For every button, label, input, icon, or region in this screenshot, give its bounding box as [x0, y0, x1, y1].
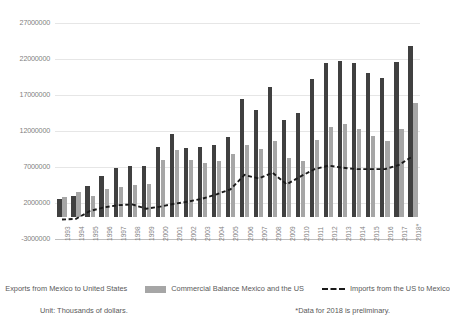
x-axis-tick-label: 2018*: [416, 224, 423, 241]
legend-item: Exports from Mexico to United States: [0, 285, 127, 293]
x-axis-tick-label: 1999: [149, 226, 156, 241]
legend-label: Imports from the US to Mexico: [350, 285, 450, 293]
y-axis-tick-label: 12000000: [20, 127, 50, 134]
x-axis-tick-label: 2014: [360, 226, 367, 241]
y-axis-tick-label: 27000000: [20, 19, 50, 26]
dashed-line-swatch-icon: [322, 288, 345, 290]
x-axis-tick-label: 2017: [402, 226, 409, 241]
x-axis-tick-label: 2001: [177, 226, 184, 241]
preliminary-note: *Data for 2018 is preliminary.: [295, 306, 390, 315]
y-axis-tick-label: 17000000: [20, 91, 50, 98]
y-axis-tick-label: -3000000: [21, 235, 50, 242]
x-axis-tick-label: 2010: [304, 226, 311, 241]
legend-label: Commercial Balance Mexico and the US: [171, 285, 304, 293]
unit-note: Unit: Thousands of dollars.: [40, 306, 128, 315]
x-axis-tick-label: 2016: [388, 226, 395, 241]
x-axis-tick-label: 1993: [65, 226, 72, 241]
y-axis-tick-label: 2000000: [23, 199, 50, 206]
x-axis-tick-label: 2005: [233, 226, 240, 241]
legend-item: Commercial Balance Mexico and the US: [145, 285, 304, 293]
x-axis-tick-label: 2015: [374, 226, 381, 241]
x-axis-tick-label: 2003: [205, 226, 212, 241]
chart-footer: Unit: Thousands of dollars. *Data for 20…: [0, 306, 429, 328]
x-axis-tick-label: 1998: [135, 226, 142, 241]
x-axis-tick-label: 2007: [262, 226, 269, 241]
x-axis-tick-label: 2002: [191, 226, 198, 241]
imports-line-path: [62, 156, 413, 219]
x-axis-tick-label: 1995: [93, 226, 100, 241]
x-axis-tick-label: 1996: [107, 226, 114, 241]
legend-label: Exports from Mexico to United States: [5, 285, 127, 293]
x-axis-tick-label: 2004: [219, 226, 226, 241]
x-axis-labels: 1993199419951996199719981999200020012002…: [55, 241, 420, 271]
x-axis-tick-label: 2006: [248, 226, 255, 241]
x-axis-tick-label: 2011: [318, 227, 325, 241]
x-axis-tick-label: 2009: [290, 226, 297, 241]
chart-legend: Exports from Mexico to United StatesComm…: [0, 278, 429, 300]
y-axis-labels: 2700000022000000170000001200000070000002…: [0, 0, 54, 270]
light-bar-swatch-icon: [145, 286, 166, 293]
x-axis-tick-label: 2012: [332, 226, 339, 241]
x-axis-tick-label: 1994: [79, 226, 86, 241]
x-axis-tick-label: 2000: [163, 226, 170, 241]
y-axis-tick-label: 7000000: [23, 163, 50, 170]
x-axis-tick-label: 1997: [121, 226, 128, 241]
chart-plot-area: 2700000022000000170000001200000070000002…: [0, 0, 429, 270]
x-axis-tick-label: 2013: [346, 226, 353, 241]
legend-item: Imports from the US to Mexico: [322, 285, 450, 293]
x-axis-tick-label: 2008: [276, 226, 283, 241]
y-axis-tick-label: 22000000: [20, 55, 50, 62]
